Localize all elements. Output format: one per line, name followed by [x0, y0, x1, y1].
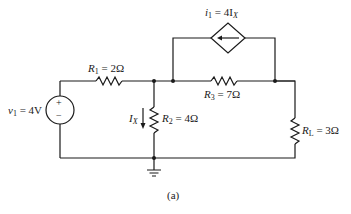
circuit-diagram [0, 0, 351, 214]
resistor-r2 [150, 107, 158, 133]
resistor-r1 [96, 77, 122, 85]
resistor-rl [291, 118, 299, 144]
node-dot [171, 79, 175, 83]
label-ix: IX [129, 113, 138, 126]
figure-caption: (a) [167, 190, 179, 201]
label-v1: v1 = 4V [8, 105, 42, 118]
label-r2: R2 = 4Ω [162, 113, 198, 126]
node-dot [152, 156, 156, 160]
label-r3: R3 = 7Ω [204, 89, 240, 102]
v1-minus: − [56, 111, 62, 121]
label-r1: R1 = 2Ω [88, 63, 124, 76]
v1-plus: + [56, 98, 62, 108]
resistor-r3 [211, 77, 237, 85]
wire [60, 144, 295, 158]
wire [173, 38, 275, 81]
ground-icon [147, 170, 161, 176]
label-rl: RL = 3Ω [302, 125, 339, 138]
label-i1: i1 = 4IX [205, 7, 238, 20]
wire [275, 81, 295, 118]
node-dot [152, 79, 156, 83]
node-dot [273, 79, 277, 83]
